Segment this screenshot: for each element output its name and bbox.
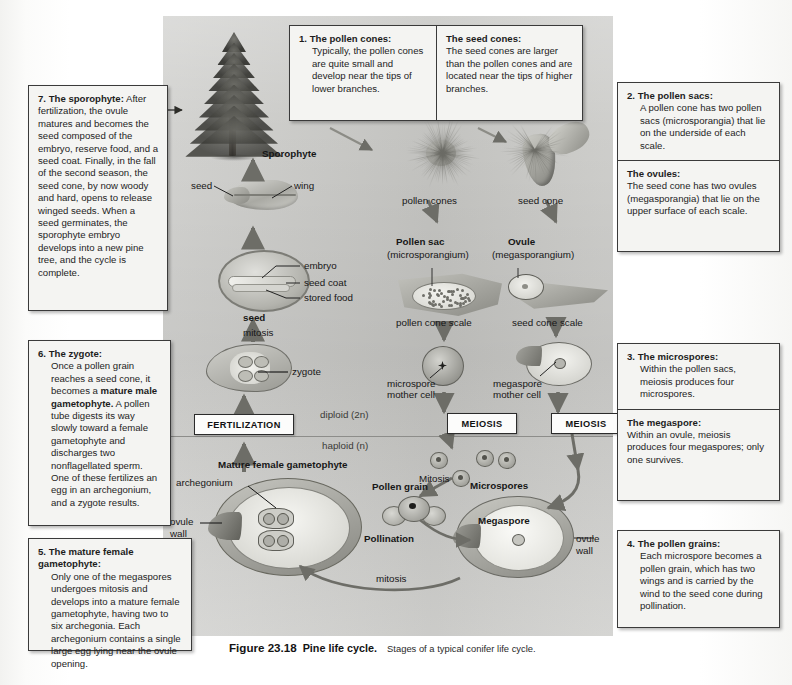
label-stored-food: stored food xyxy=(304,292,353,304)
microspore-4 xyxy=(498,452,516,469)
meiosis-box-right: MEIOSIS xyxy=(551,413,621,434)
microspore-4-nucleus xyxy=(504,457,509,462)
callout-1-number: 1. xyxy=(299,33,307,44)
label-ovule-wall-left-line1: ovule xyxy=(170,516,193,528)
label-pollination: Pollination xyxy=(364,533,414,545)
callout-2-heading: The pollen sacs: xyxy=(638,90,713,101)
pollen-grain-body xyxy=(398,496,430,522)
callout-3-megaspore: The megaspore: Within an ovule, meiosis … xyxy=(618,409,779,475)
label-pollen-sac: Pollen sac xyxy=(396,236,444,248)
microspore-3-nucleus xyxy=(482,455,487,460)
zygote-cell-a xyxy=(238,356,253,368)
callout-2b-heading: The ovules: xyxy=(627,168,680,179)
label-microspore-mother-cell-line1: microspore xyxy=(387,378,435,390)
label-seed-cone: seed cone xyxy=(518,195,563,207)
callout-4-body: Each microspore becomes a pollen grain, … xyxy=(627,550,770,612)
callout-7-number: 7. xyxy=(38,93,46,104)
label-archegonium: archegonium xyxy=(176,477,233,489)
callout-box-7: 7. The sporophyte: After fertilization, … xyxy=(28,85,168,311)
callout-1b-heading: The seed cones: xyxy=(446,33,521,44)
figure-subtitle: Stages of a typical conifer life cycle. xyxy=(387,643,536,654)
megaspore-illustration xyxy=(456,496,574,578)
figure-number: Figure 23.18 xyxy=(229,641,297,654)
callout-1b-body: The seed cones are larger than the polle… xyxy=(446,45,573,95)
ovule-shape xyxy=(508,274,544,300)
callout-7-sporophyte: 7. The sporophyte: After fertilization, … xyxy=(29,86,167,287)
callout-3-body: Within the pollen sacs, meiosis produces… xyxy=(627,363,770,400)
label-haploid: haploid (n) xyxy=(322,440,368,452)
callout-7-text: 7. The sporophyte: After fertilization, … xyxy=(38,93,158,279)
callout-2-pollen-sacs: 2. The pollen sacs: A pollen cone has tw… xyxy=(618,83,779,160)
label-megaspore: Megaspore xyxy=(478,515,530,527)
label-mature-female-gametophyte: Mature female gametophyte xyxy=(218,459,348,471)
seed-cross-section-illustration xyxy=(218,250,310,312)
callout-box-3: 3. The microspores: Within the pollen sa… xyxy=(617,343,780,501)
megaspore-nucleus xyxy=(512,534,525,546)
label-pollen-grain: Pollen grain xyxy=(372,481,428,493)
callout-box-2: 2. The pollen sacs: A pollen cone has tw… xyxy=(617,82,780,252)
pollen-grain-dot xyxy=(452,290,455,293)
callout-box-6: 6. The zygote: Once a pollen grain reach… xyxy=(28,340,171,526)
callout-6-body: Once a pollen grain reaches a seed cone,… xyxy=(38,360,161,509)
zygote-illustration xyxy=(206,344,292,392)
callout-box-5: 5. The mature female gametophyte: Only o… xyxy=(28,538,192,651)
microspore-2-nucleus xyxy=(458,475,463,480)
pollen-grain-nucleus xyxy=(409,503,416,509)
pollen-cone-scale-illustration xyxy=(398,272,502,316)
pollen-grain-dot xyxy=(432,304,435,307)
label-embryo: embryo xyxy=(304,260,337,272)
callout-1-body: Typically, the pollen cones are quite sm… xyxy=(299,45,427,95)
ploidy-divider-line xyxy=(163,436,613,437)
callout-1-seed-cones: The seed cones: The seed cones are large… xyxy=(436,26,582,120)
microspore-2 xyxy=(452,470,470,487)
winged-seed-illustration xyxy=(224,176,300,214)
callout-7-body: After fertilization, the ovule matures a… xyxy=(38,93,158,278)
pollen-grain-dot xyxy=(461,289,464,292)
label-ovule-wall-right-line2: wall xyxy=(576,545,593,557)
callout-7-heading: The sporophyte: xyxy=(49,93,124,104)
label-pollen-cones: pollen cones xyxy=(402,195,457,207)
label-microspore-mother-cell-line2: mother cell xyxy=(387,389,435,401)
label-ovule-wall-right-line1: ovule xyxy=(576,533,599,545)
label-ovule-sub: (megasporangium) xyxy=(492,249,574,261)
zygote-cell-b xyxy=(238,370,253,382)
label-pollen-sac-sub: (microsporangium) xyxy=(387,249,469,261)
zygote-cell-d xyxy=(254,370,269,382)
egg-upper-left xyxy=(263,513,275,525)
egg-lower-right xyxy=(277,535,289,547)
pollen-grain-dot xyxy=(451,293,454,296)
pollen-grain-dot xyxy=(422,294,425,297)
label-ovule: Ovule xyxy=(508,236,535,248)
label-seed-wing-left: seed xyxy=(191,180,212,192)
pollen-grain-dot xyxy=(459,302,462,305)
pollen-grain-dot xyxy=(450,304,453,307)
callout-6-zygote: 6. The zygote: Once a pollen grain reach… xyxy=(29,341,170,517)
callout-4-pollen-grains: 4. The pollen grains: Each microspore be… xyxy=(618,531,779,620)
callout-4-heading: The pollen grains: xyxy=(638,538,721,549)
archegonium-upper xyxy=(258,508,294,529)
gametophyte-inner xyxy=(228,487,350,569)
callout-4-number: 4. xyxy=(627,538,635,549)
gametophyte-micropyle xyxy=(208,512,242,540)
callout-1-pollen-cones: 1. The pollen cones: Typically, the poll… xyxy=(290,26,436,120)
pollen-grain-dot xyxy=(464,300,467,303)
meiosis-box-left: MEIOSIS xyxy=(447,413,517,434)
callout-6-body-post: A pollen tube digests its way slowly tow… xyxy=(51,398,157,508)
label-wing: wing xyxy=(294,180,314,192)
pollen-grain-dot xyxy=(429,288,432,291)
archegonium-lower xyxy=(258,530,294,551)
callout-5-mature-female-gametophyte: 5. The mature female gametophyte: Only o… xyxy=(29,539,191,678)
pollen-grain-dot xyxy=(449,299,452,302)
ovule-nucleus xyxy=(522,284,528,289)
microspore-1 xyxy=(430,452,448,469)
label-megaspore-mother-cell-line2: mother cell xyxy=(493,389,541,401)
pollen-grain-dot xyxy=(440,292,443,295)
figure-page: Sporophyte seed wing embryo seed coat st… xyxy=(0,0,792,685)
pollen-grain-dot xyxy=(438,289,441,292)
callout-3b-heading: The megaspore: xyxy=(627,417,701,428)
label-seed-cone-scale: seed cone scale xyxy=(512,317,583,329)
callout-6-heading: The zygote: xyxy=(49,348,102,359)
callout-5-number: 5. xyxy=(38,546,46,557)
callout-3-number: 3. xyxy=(627,351,635,362)
callout-6-number: 6. xyxy=(38,348,46,359)
